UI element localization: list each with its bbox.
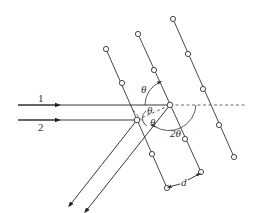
theta-arc-top	[145, 82, 160, 105]
atom	[182, 136, 187, 141]
ray-label-1: 1	[38, 92, 44, 104]
spacing-label-d: d	[181, 176, 187, 188]
atom	[198, 169, 203, 174]
atom	[119, 80, 124, 85]
atom	[103, 46, 108, 51]
bragg-diffraction-diagram: d 1 2 θ θ θ 2θ	[0, 0, 257, 213]
spacing-arrow-left	[169, 184, 180, 187]
atom	[164, 185, 169, 190]
atom-scatterer-upper	[167, 102, 173, 108]
two-theta-label: 2θ	[170, 127, 182, 139]
atom	[170, 16, 175, 21]
atom	[200, 86, 205, 91]
atom	[185, 51, 190, 56]
diffracted-ray-1	[86, 105, 170, 211]
diffracted-ray-2	[70, 120, 137, 205]
atom-scatterer-lower	[134, 117, 140, 123]
theta-label-top: θ	[141, 83, 147, 95]
spacing-arrow-right	[188, 174, 199, 180]
atom	[135, 31, 140, 36]
atom	[231, 154, 236, 159]
atom	[216, 122, 221, 127]
atom	[149, 151, 154, 156]
theta-label-mid-lower: θ	[150, 116, 156, 128]
ray-label-2: 2	[38, 121, 44, 133]
theta-label-mid-upper: θ	[147, 104, 153, 116]
atom	[151, 67, 156, 72]
spacing-indicator: d	[169, 174, 199, 188]
